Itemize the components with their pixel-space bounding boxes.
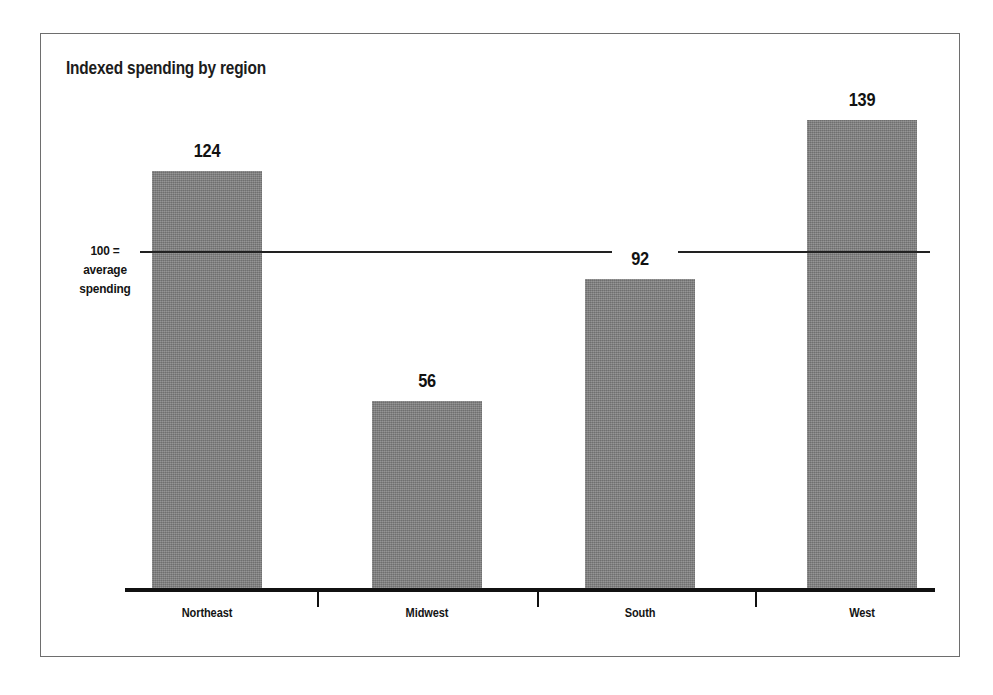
chart-figure: Indexed spending by region 124 56 92 139… [0,0,993,695]
figure-border [40,33,960,657]
chart-title: Indexed spending by region [66,58,266,79]
